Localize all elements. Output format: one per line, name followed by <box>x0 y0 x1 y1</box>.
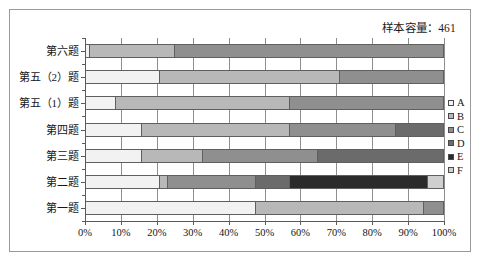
legend-label: F <box>457 164 463 178</box>
bar-segment-d <box>256 175 290 189</box>
y-minor-tick <box>82 64 85 65</box>
y-axis-label: 第六题 <box>46 44 79 58</box>
y-tick <box>81 51 85 52</box>
legend-swatch-a-icon <box>448 100 454 106</box>
x-tick <box>300 221 301 225</box>
x-axis-label: 90% <box>398 227 417 238</box>
x-tick <box>121 221 122 225</box>
y-axis-label: 第一题 <box>46 201 79 215</box>
y-axis-labels: 第六题第五（2）题第五（1）题第四题第三题第二题第一题 <box>10 38 79 221</box>
legend-item-f[interactable]: F <box>448 164 472 178</box>
x-axis-label: 10% <box>111 227 130 238</box>
bar-segment-b <box>90 44 174 58</box>
bar-segment-c <box>175 44 444 58</box>
bar-row <box>85 96 444 110</box>
x-tick <box>265 221 266 225</box>
y-tick <box>81 77 85 78</box>
y-axis-label: 第四题 <box>46 123 79 137</box>
y-axis-label: 第五（2）题 <box>19 70 80 84</box>
y-tick <box>81 208 85 209</box>
y-axis-label: 第三题 <box>46 149 79 163</box>
bar-row <box>85 123 444 137</box>
bar-segment-b <box>142 123 289 137</box>
bar-segment-b <box>256 201 425 215</box>
bar-segment-a <box>85 201 256 215</box>
y-axis-spine <box>85 38 86 221</box>
x-axis-label: 40% <box>219 227 238 238</box>
bar-segment-c <box>168 175 256 189</box>
x-tick <box>193 221 194 225</box>
bar-row <box>85 44 444 58</box>
gridline <box>444 38 445 221</box>
bar-segment-b <box>142 149 203 163</box>
y-minor-tick <box>82 38 85 39</box>
legend-label: A <box>457 96 465 110</box>
bar-row <box>85 149 444 163</box>
x-axis-label: 30% <box>183 227 202 238</box>
bar-segment-b <box>160 70 340 84</box>
bar-segment-c <box>203 149 318 163</box>
legend-item-d[interactable]: D <box>448 137 472 151</box>
bar-segment-b <box>116 96 290 110</box>
legend-item-c[interactable]: C <box>448 123 472 137</box>
x-tick <box>229 221 230 225</box>
y-axis-label: 第五（1）题 <box>19 96 80 110</box>
y-minor-tick <box>82 195 85 196</box>
y-minor-tick <box>82 143 85 144</box>
bar-segment-c <box>290 123 396 137</box>
bar-segment-a <box>85 96 116 110</box>
legend-swatch-c-icon <box>448 127 454 133</box>
bar-segment-f <box>428 175 444 189</box>
y-tick <box>81 103 85 104</box>
y-axis-label: 第二题 <box>46 175 79 189</box>
bar-row <box>85 70 444 84</box>
x-axis-label: 0% <box>78 227 92 238</box>
x-tick <box>372 221 373 225</box>
bar-segment-a <box>85 175 160 189</box>
legend-label: D <box>457 137 465 151</box>
legend-swatch-e-icon <box>448 154 454 160</box>
x-axis-label: 60% <box>291 227 310 238</box>
legend-item-e[interactable]: E <box>448 150 472 164</box>
bar-segment-d <box>396 123 444 137</box>
legend-swatch-d-icon <box>448 140 454 146</box>
legend-item-b[interactable]: B <box>448 110 472 124</box>
bar-segment-c <box>424 201 444 215</box>
bar-segment-a <box>85 149 142 163</box>
bar-segment-c <box>340 70 444 84</box>
x-tick <box>85 221 86 225</box>
y-tick <box>81 130 85 131</box>
bar-segment-b <box>160 175 167 189</box>
bar-row <box>85 201 444 215</box>
chart-title: 样本容量：461 <box>382 19 456 35</box>
y-minor-tick <box>82 90 85 91</box>
x-axis-label: 70% <box>327 227 346 238</box>
x-tick <box>444 221 445 225</box>
y-tick <box>81 182 85 183</box>
bar-segment-a <box>85 123 142 137</box>
y-minor-tick <box>82 116 85 117</box>
x-axis-label: 20% <box>147 227 166 238</box>
bar-segment-e <box>290 175 428 189</box>
y-tick <box>81 156 85 157</box>
chart-legend: ABCDEF <box>448 96 472 177</box>
x-axis-label: 100% <box>432 227 457 238</box>
legend-label: B <box>457 110 464 124</box>
bar-segment-c <box>290 96 444 110</box>
y-minor-tick <box>82 169 85 170</box>
y-minor-tick <box>82 221 85 222</box>
legend-swatch-f-icon <box>448 167 454 173</box>
legend-label: E <box>457 150 463 164</box>
legend-item-a[interactable]: A <box>448 96 472 110</box>
bar-segment-a <box>85 70 160 84</box>
chart-frame: 样本容量：461 第六题第五（2）题第五（1）题第四题第三题第二题第一题 0%1… <box>9 9 471 252</box>
plot-area <box>85 38 444 221</box>
legend-swatch-b-icon <box>448 113 454 119</box>
x-tick <box>336 221 337 225</box>
legend-label: C <box>457 123 464 137</box>
x-axis-label: 50% <box>255 227 274 238</box>
bar-row <box>85 175 444 189</box>
x-tick <box>408 221 409 225</box>
bar-segment-d <box>318 149 444 163</box>
x-axis-label: 80% <box>363 227 382 238</box>
